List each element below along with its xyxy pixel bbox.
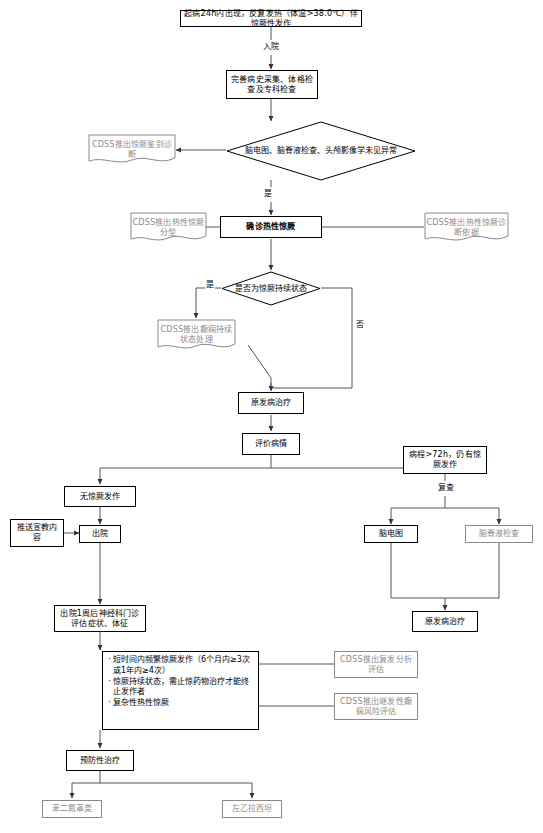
node-diagnosis-label: 确诊热性惊厥 <box>246 222 295 232</box>
node-drug-levetiracetam: 左乙拉西坦 <box>222 800 282 818</box>
node-csf: 脑脊液检查 <box>465 525 533 543</box>
node-drug-benzodiazepine: 苯二氮䓬类 <box>42 800 102 818</box>
node-followup: 出院1周后神经科门诊评估症状、体征 <box>54 605 146 632</box>
list-item: · 复杂性热性惊厥 <box>106 698 254 709</box>
edge-label-yes-exams: 是 <box>263 187 273 198</box>
edge-label-recheck: 复查 <box>437 481 455 492</box>
node-cdss-differential-label: CDSS推出惊厥鉴别诊断 <box>88 140 176 160</box>
node-cdss-subtype: CDSS推出热性惊厥分型 <box>130 212 207 243</box>
node-eeg: 脑电图 <box>364 525 418 543</box>
node-followup-label: 出院1周后神经科门诊评估症状、体征 <box>57 609 143 629</box>
node-primary-treatment: 原发病治疗 <box>238 392 304 414</box>
node-workup: 完善病史采集、体格检查及专科检查 <box>226 70 318 99</box>
node-primary-treatment-label: 原发病治疗 <box>251 398 292 408</box>
node-cdss-subtype-label: CDSS推出热性惊厥分型 <box>130 218 207 238</box>
node-primary-treatment-2-label: 原发病治疗 <box>425 617 466 627</box>
node-prevention-label: 预防性治疗 <box>80 756 121 766</box>
node-discharge-label: 出院 <box>92 529 108 539</box>
decision-exams-normal: 脑电图、脑脊液检查、头颅影像学未见异常 <box>226 121 416 181</box>
node-evaluate-label: 评价病情 <box>255 439 288 449</box>
decision-status-label: 是否为惊厥持续状态 <box>211 284 331 294</box>
node-health-education: 推送宣教内容 <box>10 519 64 547</box>
node-cdss-criteria-label: CDSS推出热性惊厥诊断依据 <box>424 218 509 238</box>
node-no-seizure: 无惊厥发作 <box>64 486 136 507</box>
node-cdss-differential: CDSS推出惊厥鉴别诊断 <box>88 134 176 165</box>
node-cdss-epilepsy-risk: CDSS推出继发性癫痫风险评估 <box>334 693 418 720</box>
node-csf-label: 脑脊液检查 <box>479 529 520 539</box>
node-cdss-epilepsy-risk-label: CDSS推出继发性癫痫风险评估 <box>337 697 415 717</box>
node-no-seizure-label: 无惊厥发作 <box>80 492 121 502</box>
node-workup-label: 完善病史采集、体格检查及专科检查 <box>229 75 315 95</box>
flowchart-canvas: 起病24h内出现，反复发热（体温>38.0℃）伴惊厥性发作 入院 完善病史采集、… <box>0 0 543 833</box>
node-primary-treatment-2: 原发病治疗 <box>412 611 478 632</box>
node-cdss-relapse: CDSS推出复发分析评估 <box>334 651 418 678</box>
bullet-icon: · <box>106 655 113 666</box>
edge-label-no-status: 否 <box>355 318 365 329</box>
node-discharge: 出院 <box>79 525 121 543</box>
decision-exams-label: 脑电图、脑脊液检查、头颅影像学未见异常 <box>239 146 402 156</box>
node-cdss-criteria: CDSS推出热性惊厥诊断依据 <box>424 212 509 243</box>
edge-label-admission: 入院 <box>262 40 280 51</box>
node-drug-levetiracetam-label: 左乙拉西坦 <box>232 804 273 814</box>
node-prevention: 预防性治疗 <box>66 750 134 771</box>
bullet-icon: · <box>106 677 113 688</box>
node-cdss-status-management: CDSS推出癫痫持续状态处理 <box>157 319 236 351</box>
list-item: · 惊厥持续状态，需止惊药物治疗才能终止发作者 <box>106 677 254 699</box>
node-drug-benzodiazepine-label: 苯二氮䓬类 <box>52 804 93 814</box>
decision-status-epilepticus: 是否为惊厥持续状态 <box>221 271 321 306</box>
node-criteria-list: · 短时间内频繁惊厥发作（6个月内≥3次或1年内≥4次） · 惊厥持续状态，需止… <box>102 651 259 730</box>
node-cdss-relapse-label: CDSS推出复发分析评估 <box>337 655 415 675</box>
node-persistent-seizures: 病程>72h，仍有惊厥发作 <box>403 446 487 474</box>
node-evaluate: 评价病情 <box>242 433 300 455</box>
bullet-icon: · <box>106 698 113 709</box>
node-health-education-label: 推送宣教内容 <box>13 523 61 543</box>
node-persistent-label: 病程>72h，仍有惊厥发作 <box>406 450 484 470</box>
list-item: · 短时间内频繁惊厥发作（6个月内≥3次或1年内≥4次） <box>106 655 254 677</box>
node-diagnosis: 确诊热性惊厥 <box>220 216 322 238</box>
node-onset: 起病24h内出现，反复发热（体温>38.0℃）伴惊厥性发作 <box>180 10 362 27</box>
node-eeg-label: 脑电图 <box>379 529 404 539</box>
node-cdss-status-management-label: CDSS推出癫痫持续状态处理 <box>157 325 236 345</box>
node-onset-label: 起病24h内出现，反复发热（体温>38.0℃）伴惊厥性发作 <box>183 9 359 29</box>
